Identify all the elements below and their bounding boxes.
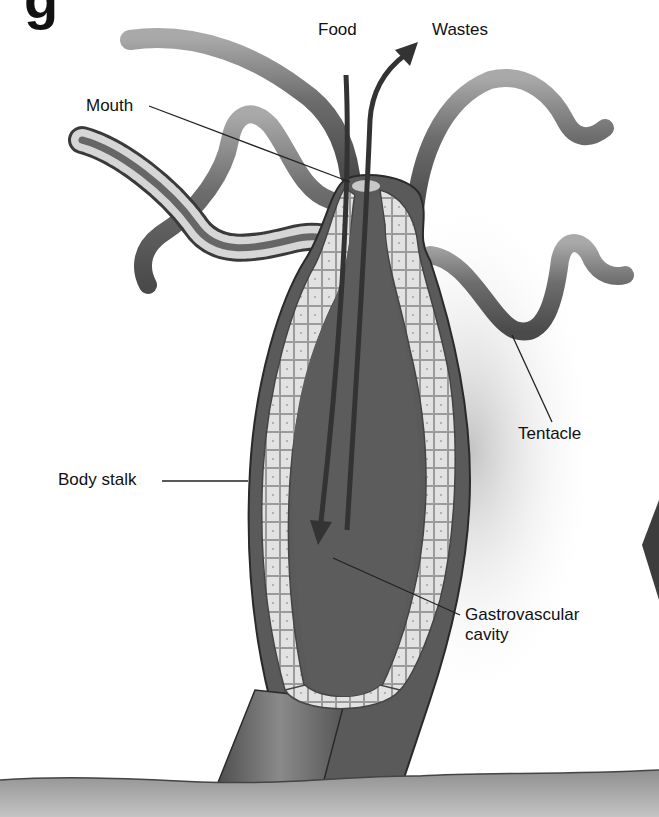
label-body-stalk: Body stalk — [58, 470, 136, 490]
tentacle-upper-left — [130, 38, 350, 175]
label-tentacle: Tentacle — [518, 424, 581, 444]
label-mouth: Mouth — [86, 96, 133, 116]
hydra-diagram: g — [0, 0, 659, 817]
label-gastrovascular-line2: cavity — [465, 625, 579, 645]
label-food: Food — [318, 20, 357, 40]
label-gastrovascular-line1: Gastrovascular — [465, 605, 579, 625]
hydra-illustration — [0, 0, 659, 817]
label-gastrovascular: Gastrovascular cavity — [465, 605, 579, 644]
adjacent-figure-fragment — [642, 500, 659, 600]
label-wastes: Wastes — [432, 20, 488, 40]
tentacle-upper-right — [415, 78, 605, 210]
